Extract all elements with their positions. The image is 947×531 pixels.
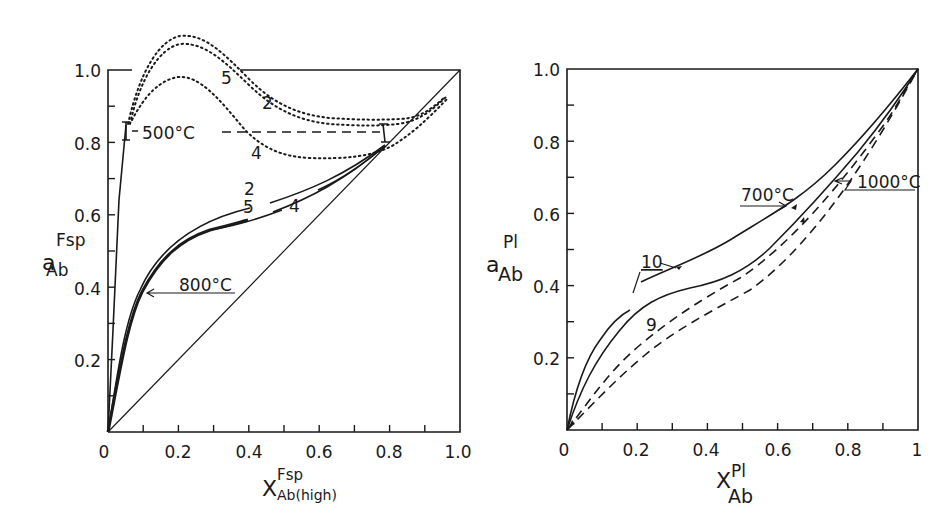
left-x-tick-label: 0.8 <box>375 442 402 462</box>
left-chart: 1.0 0.8 0.6 0.4 0.2 0 0.2 0.4 0.6 0.8 1.… <box>42 36 472 503</box>
svg-text:Fsp: Fsp <box>277 466 303 484</box>
right-y-tick-label: 1.0 <box>533 60 560 80</box>
label-700c: 700°C <box>741 185 794 205</box>
right-x-tick-label: 0.2 <box>622 440 649 460</box>
left-y-tick-label: 0.8 <box>74 134 101 154</box>
right-x-tick-label: 0.4 <box>692 440 719 460</box>
label-dotted-4: 4 <box>251 143 262 163</box>
label-1000c: 1000°C <box>857 172 921 192</box>
right-y-tick-label: 0.4 <box>533 277 560 297</box>
right-x-tick-label: 1 <box>912 440 923 460</box>
label-model-9: 9 <box>646 315 657 335</box>
right-model-9-700c <box>567 69 918 430</box>
right-y-ticks <box>567 105 574 394</box>
left-x-tick-label: 0.6 <box>305 442 332 462</box>
leader-model-10-b <box>633 272 640 293</box>
label-500c: 500°C <box>142 123 195 143</box>
left-x-tick-label: 0.4 <box>235 442 262 462</box>
left-y-tick-label: 1.0 <box>74 61 101 81</box>
left-800c-curve-5 <box>108 220 248 432</box>
left-x-axis-label: X Fsp Ab(high) <box>262 466 337 503</box>
right-plot-frame <box>567 69 918 430</box>
svg-text:Pl: Pl <box>731 461 746 481</box>
right-x-axis-label: X Pl Ab <box>716 461 753 507</box>
left-500c-curve-4 <box>132 77 448 158</box>
right-y-tick-label: 0.8 <box>533 133 560 153</box>
svg-text:Fsp: Fsp <box>56 230 85 250</box>
right-y-axis-label: a Pl Ab <box>486 232 523 285</box>
right-x-ticks <box>602 423 883 430</box>
left-x-tick-label: 1.0 <box>444 442 471 462</box>
left-y-axis-label: a Fsp Ab <box>42 230 85 280</box>
left-x-tick-label: 0.2 <box>164 442 191 462</box>
right-model-10-1000c <box>567 69 918 430</box>
left-500c-curve-5 <box>130 44 447 126</box>
right-model-9-1000c <box>567 69 918 430</box>
label-curve-5: 5 <box>243 197 254 217</box>
svg-text:X: X <box>262 476 277 501</box>
right-y-tick-label: 0.6 <box>533 205 560 225</box>
svg-text:Ab: Ab <box>728 485 753 507</box>
label-model-10: 10 <box>641 252 663 272</box>
left-800c-curve-2 <box>108 208 250 432</box>
svg-text:Pl: Pl <box>503 232 518 252</box>
left-y-tick-label: 0.4 <box>74 279 101 299</box>
right-model-10-700c-low <box>567 310 630 430</box>
left-y-tick-label: 0.6 <box>74 206 101 226</box>
label-curve-4: 4 <box>289 196 300 216</box>
figure: 1.0 0.8 0.6 0.4 0.2 0 0.2 0.4 0.6 0.8 1.… <box>0 0 947 531</box>
svg-text:Ab: Ab <box>46 260 68 280</box>
right-x-tick-label: 0.6 <box>764 440 791 460</box>
right-x-tick-label: 0.8 <box>834 440 861 460</box>
label-curve-2: 2 <box>244 179 255 199</box>
label-dotted-2: 2 <box>262 93 273 113</box>
svg-text:Ab: Ab <box>498 263 523 285</box>
left-y-tick-label: 0.2 <box>74 351 101 371</box>
left-x-tick-label: 0 <box>99 442 110 462</box>
left-x-ticks <box>143 425 425 432</box>
right-x-tick-label: 0 <box>559 440 570 460</box>
right-y-tick-label: 0.2 <box>533 349 560 369</box>
left-800c-curve-2-upper <box>270 145 385 203</box>
label-dotted-5: 5 <box>221 68 232 88</box>
left-500c-right-bracket <box>379 124 390 142</box>
left-500c-curve-2 <box>128 36 445 124</box>
right-chart: 1.0 0.8 0.6 0.4 0.2 0 0.2 0.4 0.6 0.8 1 … <box>486 60 922 507</box>
arrow-marker <box>800 217 805 223</box>
label-800c: 800°C <box>179 275 232 295</box>
svg-text:Ab(high): Ab(high) <box>277 487 337 503</box>
